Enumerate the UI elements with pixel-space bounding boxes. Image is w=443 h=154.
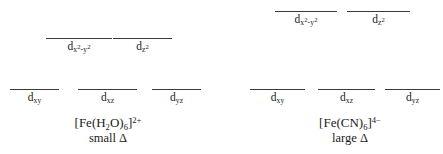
energy-level-line (347, 11, 410, 12)
energy-level-eg-dz2-left: dz2 (113, 38, 172, 52)
crystal-field-splitting-figure: dx2-y2 dz2 dxy dxz dyz [Fe(H2O)6]2+ smal… (0, 0, 443, 154)
complex-caption-right: [Fe(CN)6]4− large Δ (289, 115, 411, 146)
energy-level-eg-dx2y2-left: dx2-y2 (46, 38, 112, 52)
orbital-label-dxy: dxy (10, 91, 59, 103)
energy-level-eg-dx2y2-right: dx2-y2 (275, 11, 337, 25)
orbital-label-dz2: dz2 (113, 40, 172, 52)
orbital-label-dxz: dxz (78, 91, 137, 103)
splitting-magnitude-left: small Δ (47, 131, 169, 146)
orbital-label-dx2y2: dx2-y2 (46, 40, 112, 52)
complex-formula-left: [Fe(H2O)6]2+ (47, 115, 169, 131)
energy-level-line (250, 89, 305, 90)
energy-level-line (78, 89, 137, 90)
orbital-label-dx2y2: dx2-y2 (275, 13, 337, 25)
complex-formula-right: [Fe(CN)6]4− (289, 115, 411, 131)
orbital-label-dz2: dz2 (347, 13, 410, 25)
energy-level-line (318, 89, 375, 90)
energy-level-t2g-dyz-left: dyz (152, 89, 201, 103)
orbital-label-dxy: dxy (250, 91, 305, 103)
energy-level-line (385, 89, 440, 90)
energy-level-line (113, 38, 172, 39)
energy-level-line (10, 89, 59, 90)
energy-level-t2g-dxz-left: dxz (78, 89, 137, 103)
energy-level-line (152, 89, 201, 90)
energy-level-t2g-dxy-left: dxy (10, 89, 59, 103)
complex-caption-left: [Fe(H2O)6]2+ small Δ (47, 115, 169, 146)
energy-level-eg-dz2-right: dz2 (347, 11, 410, 25)
energy-level-line (275, 11, 337, 12)
orbital-label-dyz: dyz (152, 91, 201, 103)
energy-level-line (46, 38, 112, 39)
splitting-magnitude-right: large Δ (289, 131, 411, 146)
orbital-label-dyz: dyz (385, 91, 440, 103)
energy-level-t2g-dyz-right: dyz (385, 89, 440, 103)
orbital-label-dxz: dxz (318, 91, 375, 103)
energy-level-t2g-dxz-right: dxz (318, 89, 375, 103)
energy-level-t2g-dxy-right: dxy (250, 89, 305, 103)
